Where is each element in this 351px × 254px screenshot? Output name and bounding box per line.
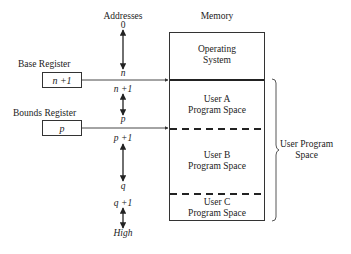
region-os-line2: System	[169, 55, 265, 66]
region-user-b-line1: User B	[169, 150, 265, 161]
base-register-value: n +1	[52, 75, 71, 86]
address-high: High	[114, 228, 133, 238]
region-user-c-line2: Program Space	[169, 208, 265, 219]
bounds-register-value: p	[60, 123, 65, 134]
region-user-c-line1: User C	[169, 197, 265, 208]
region-user-a-line1: User A	[169, 94, 265, 105]
bounds-register-label: Bounds Register	[13, 108, 76, 118]
bounds-register-box: p	[42, 120, 82, 136]
user-program-space-label: User Program Space	[280, 139, 333, 161]
address-n-plus-1: n +1	[114, 84, 132, 94]
address-q-plus-1: q +1	[114, 198, 132, 208]
address-q: q	[121, 181, 126, 191]
memory-header: Memory	[201, 11, 234, 21]
region-user-b-line2: Program Space	[169, 161, 265, 172]
region-user-a-line2: Program Space	[169, 105, 265, 116]
region-user-c: User C Program Space	[169, 197, 265, 219]
brace-label-line1: User Program	[280, 139, 333, 150]
base-register-box: n +1	[42, 72, 82, 88]
region-user-b: User B Program Space	[169, 150, 265, 172]
brace-label-line2: Space	[280, 150, 333, 161]
region-os-line1: Operating	[169, 44, 265, 55]
region-user-a: User A Program Space	[169, 94, 265, 116]
address-0: 0	[121, 20, 126, 30]
address-p: p	[121, 114, 126, 124]
address-n: n	[121, 68, 126, 78]
user-program-space-brace	[272, 79, 279, 221]
base-register-label: Base Register	[18, 59, 71, 69]
address-p-plus-1: p +1	[114, 133, 132, 143]
region-operating-system: Operating System	[169, 44, 265, 66]
